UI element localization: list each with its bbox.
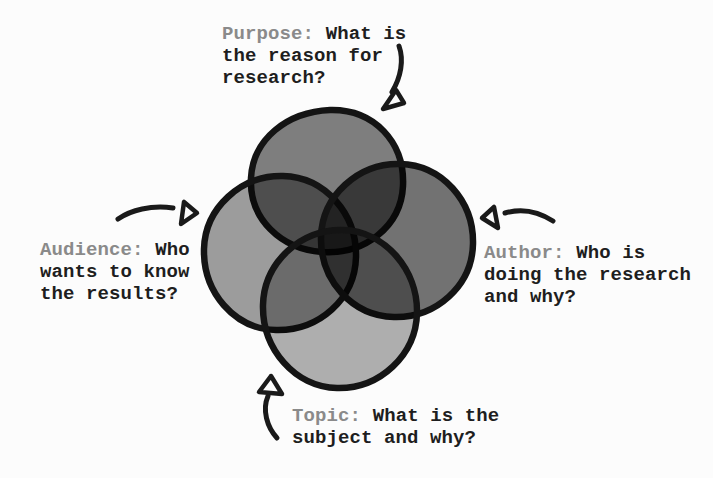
topic-label: Topic:What is the subject and why? <box>292 405 499 449</box>
label-line: Topic:What is the <box>292 405 499 427</box>
venn-figure: Purpose:What is the reason for research?… <box>0 0 713 478</box>
audience-term: Audience: <box>40 239 144 261</box>
label-line: the reason for <box>222 45 406 67</box>
topic-circle <box>263 230 417 388</box>
arrow-head <box>383 90 404 109</box>
topic-arrow-icon <box>259 376 282 438</box>
author-label: Author:Who is doing the research and why… <box>484 242 691 308</box>
label-line: Author:Who is <box>484 242 691 264</box>
label-line: Purpose:What is <box>222 23 406 45</box>
label-line: wants to know <box>40 261 190 283</box>
arrow-stem <box>118 207 173 219</box>
author-term: Author: <box>484 242 565 264</box>
label-text: What is the <box>373 405 500 427</box>
purpose-label: Purpose:What is the reason for research? <box>222 23 406 89</box>
label-text: Who <box>155 239 190 261</box>
label-line: and why? <box>484 286 691 308</box>
purpose-term: Purpose: <box>222 23 314 45</box>
topic-term: Topic: <box>292 405 361 427</box>
arrow-head <box>259 376 282 394</box>
audience-arrow-icon <box>118 202 197 224</box>
author-arrow-icon <box>482 207 553 228</box>
label-line: the results? <box>40 283 190 305</box>
label-line: Audience:Who <box>40 239 190 261</box>
arrow-stem <box>265 396 277 438</box>
arrow-stem <box>505 211 553 221</box>
label-line: subject and why? <box>292 427 499 449</box>
label-text: Who is <box>576 242 645 264</box>
label-text: What is <box>326 23 407 45</box>
label-line: doing the research <box>484 264 691 286</box>
arrow-head <box>482 207 498 228</box>
label-line: research? <box>222 67 406 89</box>
arrow-head <box>181 202 197 224</box>
audience-label: Audience:Who wants to know the results? <box>40 239 190 305</box>
